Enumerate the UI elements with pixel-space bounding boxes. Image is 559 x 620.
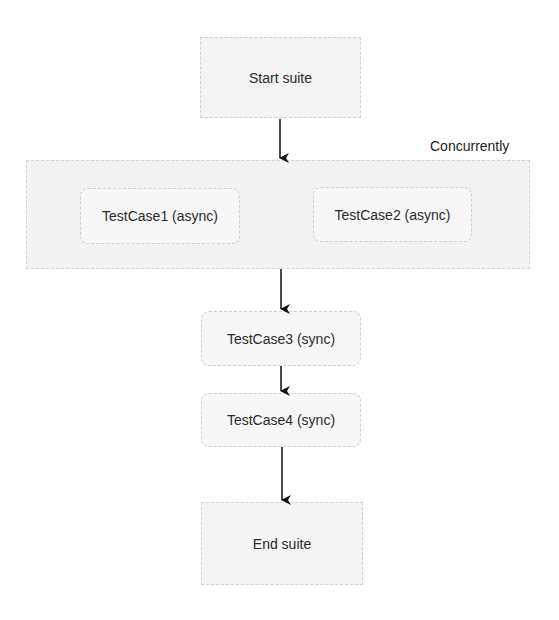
arrows-layer [0, 0, 559, 620]
